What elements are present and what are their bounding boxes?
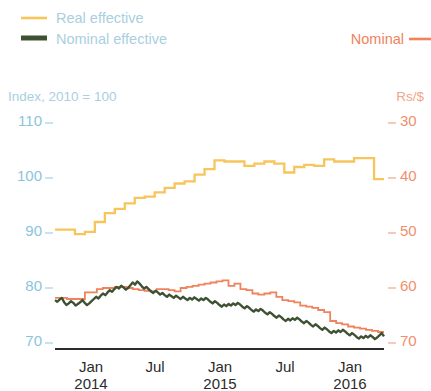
left-axis-ticks: 110 100 90 80 70: [17, 112, 53, 349]
legend-right: Nominal: [351, 31, 431, 47]
x-tick-month-1: Jul: [145, 358, 164, 375]
right-tick-30: 30: [400, 112, 417, 129]
x-tick-month-0: Jan: [79, 358, 103, 375]
series-line-nominal-effective: [55, 281, 384, 339]
x-tick-year-0: 2014: [74, 375, 107, 391]
right-axis-ticks: 30 40 50 60 70: [388, 112, 417, 349]
legend-label-real-effective: Real effective: [56, 10, 144, 26]
left-axis-title: Index, 2010 = 100: [8, 89, 116, 104]
right-tick-40: 40: [400, 167, 417, 184]
series-line-real-effective: [55, 158, 384, 234]
x-tick-month-2: Jan: [208, 358, 232, 375]
left-tick-110: 110: [18, 112, 42, 129]
left-tick-90: 90: [25, 222, 42, 239]
left-tick-80: 80: [25, 277, 42, 294]
right-tick-70: 70: [400, 332, 417, 349]
legend-left: Real effective Nominal effective: [21, 10, 167, 47]
right-tick-50: 50: [400, 222, 417, 239]
legend-label-nominal-effective: Nominal effective: [56, 31, 167, 47]
right-axis-title: Rs/$: [396, 89, 424, 104]
x-tick-year-2: 2015: [203, 375, 236, 391]
x-tick-year-4: 2016: [333, 375, 366, 391]
left-tick-70: 70: [25, 332, 42, 349]
chart-svg: Real effective Nominal effective Nominal…: [0, 0, 431, 391]
plot-area: [55, 158, 384, 339]
left-tick-100: 100: [17, 167, 42, 184]
legend-label-nominal: Nominal: [351, 31, 404, 47]
right-tick-60: 60: [400, 277, 417, 294]
x-tick-month-3: Jul: [275, 358, 294, 375]
x-axis-ticks: Jan 2014 Jul Jan 2015 Jul Jan 2016: [74, 358, 366, 391]
x-tick-month-4: Jan: [338, 358, 362, 375]
exchange-rate-chart: Real effective Nominal effective Nominal…: [0, 0, 431, 391]
